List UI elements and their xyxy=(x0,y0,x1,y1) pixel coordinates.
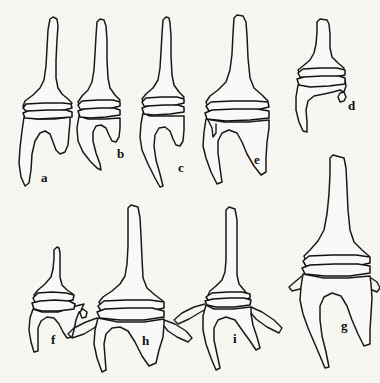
specimen-h-label: h xyxy=(142,333,150,348)
specimen-g-collar-bottom xyxy=(302,264,370,276)
specimen-h-collar-bottom xyxy=(97,308,164,320)
specimen-a-collar-bottom xyxy=(23,110,72,119)
specimen-e-label: e xyxy=(254,152,260,167)
specimen-f-label: f xyxy=(51,332,56,347)
specimen-g-label: g xyxy=(341,318,348,333)
specimen-b-label: b xyxy=(117,146,124,161)
specimen-i-collar-bottom xyxy=(205,298,251,307)
specimen-c-collar-bottom xyxy=(142,105,184,115)
specimen-e-collar-bottom xyxy=(205,109,269,121)
specimen-d-collar-bottom xyxy=(297,76,345,87)
specimen-f-collar-bottom xyxy=(32,300,75,311)
specimen-i-label: i xyxy=(233,331,237,346)
specimen-c-label: c xyxy=(178,160,184,175)
specimen-d-label: d xyxy=(348,98,356,113)
specimen-a-label: a xyxy=(41,170,48,185)
specimen-plate-svg: a b c e xyxy=(0,0,380,383)
specimen-b-collar-bottom xyxy=(78,108,120,118)
figure-plate: a b c e xyxy=(0,0,380,383)
